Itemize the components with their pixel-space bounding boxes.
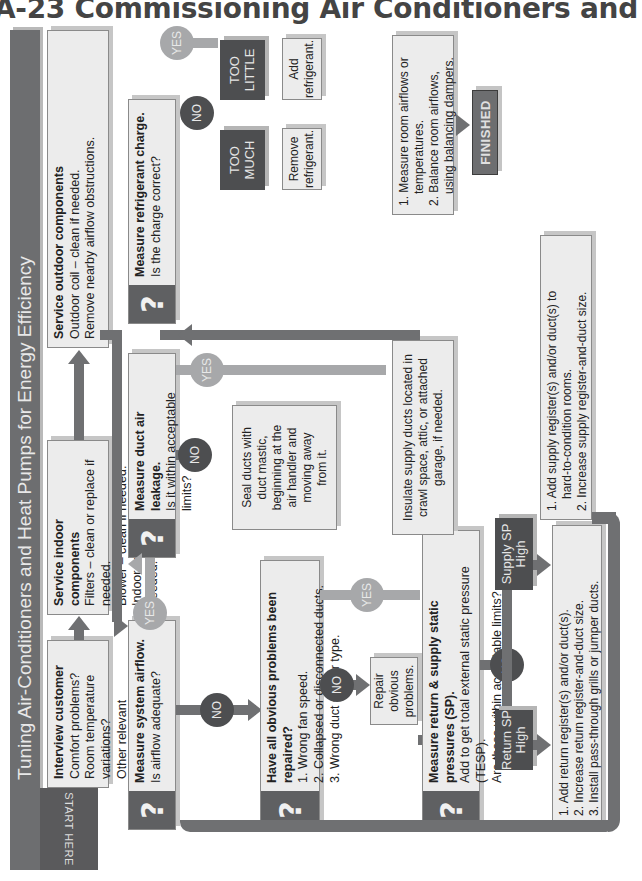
interview-line: Room temperature variations? [83,649,114,779]
return-sp-high: Return SP High [495,710,533,770]
decision-no: NO [200,693,234,727]
arrowhead-icon [356,674,370,696]
service-outdoor-box: Service outdoor components Outdoor coil … [47,30,109,348]
too-little-line: LITTLE [243,49,257,92]
balance-line: temperatures. [412,44,427,206]
pipe-outdoor-to-airflow [112,332,122,622]
too-much-box: TOO MUCH [220,130,265,190]
static-pressure-box: ? Measure return & supply static pressur… [422,530,480,830]
supply-sp-line: High [514,541,528,568]
arrowhead-icon [128,553,142,575]
arrowhead-icon [178,324,192,346]
return-sp-line: High [514,727,528,754]
finished-box: FINISHED [472,90,498,175]
indoor-title: Service indoor components [52,449,83,606]
arrowhead-icon [68,350,90,364]
start-here-label: START HERE [40,788,98,870]
remove-line: Remove [287,137,302,182]
outdoor-line: Remove nearby airflow obstructions. [83,39,99,339]
refrigerant-question: Is the charge correct? [149,156,163,277]
measure-airflow-box: ? Measure system airflow.Is airflow adeq… [128,620,176,830]
balance-airflows-box: 1. Measure room airflows or temperatures… [392,35,454,215]
seal-line: air handler and [285,427,300,507]
repair-line: obvious [387,670,402,711]
interview-line: Comfort problems? [68,649,84,779]
repair-line: Repair [372,673,387,708]
arrowhead-icon [537,734,551,756]
pipe-bottom-loop [608,512,620,832]
decision-no: NO [178,438,212,472]
return-sp-line: Return SP [500,710,514,770]
outdoor-title: Service outdoor components [52,39,68,339]
question-icon: ? [129,791,175,829]
pipe-insulate-to-refrigerant [160,330,420,340]
repair-line: problems. [402,665,417,718]
too-much-line: MUCH [243,141,257,180]
too-much-line: TOO [228,146,242,174]
remove-line: refrigerant. [302,130,317,188]
remove-refrigerant-box: Remove refrigerant. [282,128,322,190]
too-little-line: TOO [228,56,242,84]
seal-line: beginning at the [270,425,285,510]
leakage-title: Measure duct air leakage. [133,362,164,511]
pipe-left-return [180,820,616,832]
return-fix-box: 1. Add return register(s) and/or duct(s)… [552,525,602,825]
seal-ducts-box: Seal ducts with duct mastic, beginning a… [232,405,337,530]
outdoor-line: Outdoor coil – clean if needed. [68,39,84,339]
arrowhead-icon [114,615,128,637]
seal-line: duct mastic, [255,435,270,499]
pipe-bottom-right [592,512,616,524]
static-title: Measure return & supply static pressures… [427,539,458,783]
interview-title: Interview customer [52,649,68,779]
refrigerant-title: Measure refrigerant charge. [133,112,149,277]
diagram-title: Tuning Air-Conditioners and Heat Pumps f… [10,30,40,870]
duct-leakage-box: ? Measure duct air leakage.Is it within … [128,353,176,558]
insulate-line: garage, if needed. [431,389,446,486]
decision-no: NO [320,668,354,702]
seal-line: from it. [315,449,330,486]
seal-line: moving away [300,432,315,502]
decision-yes: YES [160,26,194,60]
insulate-ducts-box: Insulate supply ducts located in crawl s… [392,340,454,535]
supply-fix-line: 1. Add supply register(s) and/or duct(s)… [545,244,560,511]
decision-yes: YES [350,578,384,612]
supply-fix-line: hard-to-condition rooms. [560,244,575,511]
obvious-problems-box: ? Have all obvious problems been repaire… [260,560,320,830]
balance-line: using balancing dampers. [442,44,457,206]
obvious-title: Have all obvious problems been repaired? [265,569,296,783]
pipe-outdoor-drop [100,330,122,340]
airflow-question: Is airflow adequate? [149,671,163,783]
insulate-line: crawl space, attic, or attached [416,358,431,517]
return-fix-line: 1. Add return register(s) and/or duct(s)… [557,534,572,816]
arrowhead-icon [537,554,551,576]
airflow-title: Measure system airflow. [133,639,149,783]
refrigerant-charge-box: ? Measure refrigerant charge.Is the char… [128,99,176,324]
service-indoor-box: Service indoor components Filters – clea… [47,440,109,615]
balance-line: 1. Measure room airflows or [397,44,412,206]
arrow-indoor-to-outdoor [74,360,84,440]
interview-customer-box: Interview customer Comfort problems? Roo… [47,640,109,788]
start-here-text: START HERE [63,792,75,865]
supply-sp-line: Supply SP [500,524,514,585]
too-little-box: TOO LITTLE [220,40,265,100]
add-line: Add [287,58,302,79]
supply-sp-high: Supply SP High [495,518,533,590]
balance-line: 2. Balance room airflows, [427,44,442,206]
return-fix-line: 3. Install pass-through grills or jumper… [587,534,602,816]
arrowhead-icon [68,616,90,630]
arrowhead-icon [456,114,470,136]
add-line: refrigerant. [302,40,317,98]
add-refrigerant-box: Add refrigerant. [282,38,322,100]
decision-no: NO [180,96,214,130]
question-icon: ? [129,519,175,557]
repair-obvious-box: Repair obvious problems. [370,657,418,725]
insulate-line: Insulate supply ducts located in [401,354,416,521]
decision-yes: YES [190,353,224,387]
supply-fix-box: 1. Add supply register(s) and/or duct(s)… [540,235,592,520]
flowchart-canvas: Tuning Air-Conditioners and Heat Pumps f… [0,20,642,880]
obvious-line: 1. Wrong fan speed. [296,569,312,783]
return-fix-line: 2. Increase return register-and-duct siz… [572,534,587,816]
seal-line: Seal ducts with [240,427,255,508]
supply-fix-line: 2. Increase supply register-and-duct siz… [575,244,590,511]
decision-yes: YES [133,596,167,630]
